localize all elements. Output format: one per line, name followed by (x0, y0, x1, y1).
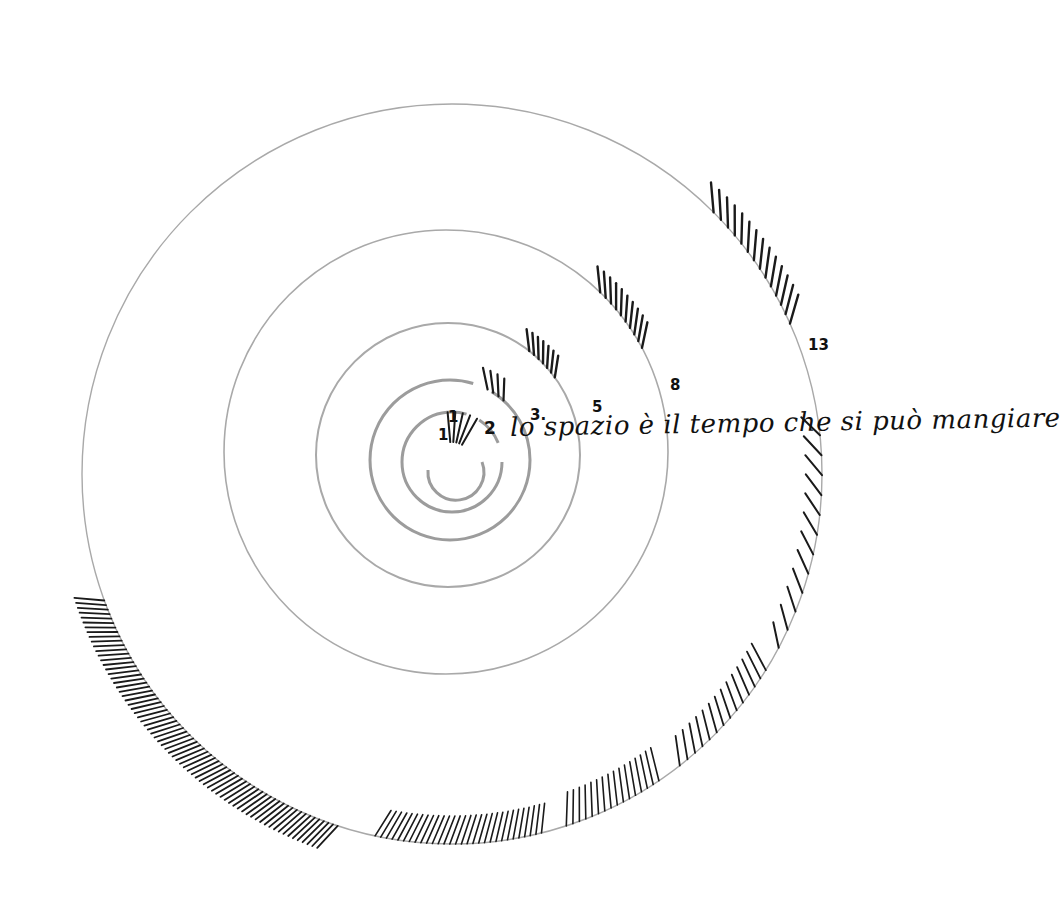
hatch-stroke (634, 309, 638, 335)
hatch-stroke (709, 704, 717, 733)
hatch-stroke (642, 322, 647, 348)
fib-number-1a: 1 (448, 410, 458, 425)
hatch-stroke (798, 550, 809, 574)
hatch-stroke (76, 603, 106, 605)
hatch-stroke (162, 735, 190, 745)
hatch-stroke (155, 728, 184, 738)
hatch-stroke (776, 266, 782, 295)
hatch-stroke (404, 814, 418, 841)
hatch-stroke (689, 724, 695, 753)
hatch-stroke (555, 356, 558, 378)
hatch-stroke (551, 351, 553, 373)
hatch-stroke (602, 777, 605, 811)
hatch-stroke (527, 329, 530, 351)
hatch-stroke (456, 816, 466, 844)
hatch-stroke (513, 809, 518, 839)
hatch-stroke (438, 816, 449, 844)
hatch-stroke (432, 816, 444, 844)
hatch-stroke (498, 374, 499, 396)
hatch-stroke (74, 598, 104, 601)
hatch-stroke (508, 810, 514, 839)
hatch-stroke (490, 371, 493, 393)
hatch-stroke (726, 682, 736, 710)
hatch-stroke (90, 636, 120, 637)
hatch-stroke (80, 613, 110, 615)
ring-5 (224, 230, 668, 674)
hatch-stroke (683, 730, 688, 760)
hatch-stroke (721, 690, 731, 718)
hatch-stroke (804, 512, 817, 534)
hatch-stroke (781, 275, 788, 304)
ring-4 (316, 323, 580, 587)
hatch-stroke (604, 272, 606, 298)
hatch-stroke (483, 368, 488, 390)
hatch-stroke (169, 742, 197, 753)
hatch-stroke (621, 289, 622, 315)
hatch-stroke (635, 758, 641, 791)
hatch-stroke (630, 762, 636, 796)
hatch-stroke (101, 658, 131, 661)
hatch-stroke (547, 346, 548, 368)
hatch-stroke (766, 248, 770, 278)
hatch-stroke (104, 662, 134, 665)
hatch-stroke (702, 710, 709, 739)
hatch-stroke (532, 333, 534, 355)
hatch-stroke (741, 214, 742, 244)
hatch-stroke (801, 531, 813, 554)
hatch-stroke (78, 608, 108, 610)
hatch-stroke (754, 230, 757, 260)
hatch-stroke (711, 183, 714, 213)
hatch-stroke (626, 296, 628, 322)
hatch-stroke (805, 455, 822, 475)
hatch-stroke (624, 765, 629, 799)
hatch-stroke (165, 739, 193, 750)
hatch-stroke (151, 725, 180, 734)
hatch-stroke (542, 803, 545, 833)
hatch-stroke (538, 337, 539, 359)
hatch-stroke (638, 315, 643, 341)
hatch-stroke (111, 675, 141, 679)
hatch-stroke (83, 623, 113, 624)
hatch-stroke (566, 792, 567, 826)
hatch-stroke (773, 622, 778, 647)
hatch-stroke (719, 190, 721, 220)
hatch-stroke (92, 641, 122, 642)
hatch-marks (74, 183, 822, 848)
handwritten-phrase: lo spazio è il tempo che si può mangiare (510, 404, 1061, 440)
hatch-stroke (158, 732, 186, 742)
hatch-stroke (610, 278, 611, 304)
hatch-stroke (598, 266, 601, 292)
hatch-stroke (573, 790, 574, 824)
hatch-stroke (525, 807, 530, 837)
hatch-stroke (117, 683, 147, 688)
hatch-stroke (114, 679, 144, 683)
hatch-stroke (82, 618, 112, 619)
hatch-stroke (421, 816, 434, 843)
fib-number-8: 8 (670, 378, 680, 393)
fib-number-1b: 1 (438, 428, 448, 443)
hatch-stroke (613, 771, 617, 805)
hatch-stroke (748, 222, 750, 252)
hatch-stroke (781, 605, 788, 630)
hatch-stroke (760, 239, 763, 269)
hatch-stroke (585, 785, 586, 819)
hatch-stroke (793, 569, 802, 593)
ring-3 (370, 380, 530, 540)
hatch-stroke (536, 805, 540, 835)
hatch-stroke (727, 198, 728, 228)
spiral-rings (82, 104, 822, 844)
hatch-stroke (715, 697, 724, 726)
hatch-stroke (450, 816, 460, 844)
hatch-stroke (530, 806, 534, 836)
hatch-stroke (591, 782, 592, 816)
hatch-stroke (461, 815, 471, 844)
hatch-stroke (427, 816, 439, 843)
hatch-stroke (787, 587, 795, 612)
hatch-stroke (696, 717, 703, 746)
hatch-stroke (630, 302, 633, 328)
hatch-stroke (597, 780, 599, 814)
hatch-stroke (96, 649, 126, 651)
hatch-stroke (148, 721, 177, 730)
hatch-stroke (619, 768, 624, 802)
